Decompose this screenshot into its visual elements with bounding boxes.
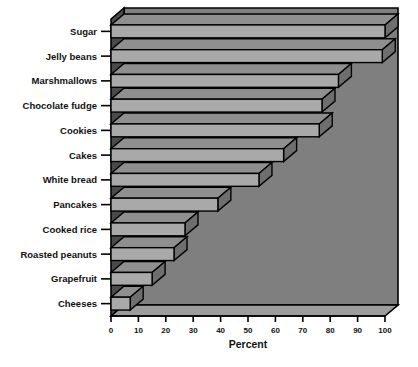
bar-group — [111, 63, 351, 87]
bar-group — [111, 162, 272, 186]
category-label: Pancakes — [53, 199, 97, 210]
category-label: Grapefruit — [51, 273, 98, 284]
bar-group — [111, 113, 332, 137]
category-label: Marshmallows — [32, 75, 97, 86]
bar-front-face[interactable] — [111, 50, 382, 63]
x-tick-label: 0 — [109, 326, 114, 335]
bar-group — [111, 237, 187, 261]
bar-front-face[interactable] — [111, 198, 218, 211]
bar-chart: SugarJelly beansMarshmallowsChocolate fu… — [0, 0, 418, 367]
category-label: Sugar — [70, 26, 97, 37]
bar-group — [111, 14, 398, 38]
bar-top-face — [111, 39, 395, 50]
caption-smudge — [8, 347, 158, 361]
bar-group — [111, 138, 297, 162]
x-axis: 0102030405060708090100 Percent — [109, 316, 392, 350]
x-tick-label: 70 — [298, 326, 307, 335]
x-tick-label: 30 — [189, 326, 198, 335]
category-labels: SugarJelly beansMarshmallowsChocolate fu… — [20, 26, 111, 309]
bar-group — [111, 39, 395, 63]
bar-front-face[interactable] — [111, 173, 259, 186]
bar-top-face — [111, 113, 332, 124]
bar-front-face[interactable] — [111, 297, 130, 310]
bar-top-face — [111, 14, 398, 25]
bar-group — [111, 187, 231, 211]
x-tick-label: 10 — [134, 326, 143, 335]
category-label: Cookies — [60, 125, 97, 136]
bar-front-face[interactable] — [111, 272, 152, 285]
category-label: Cheeses — [58, 298, 97, 309]
bar-top-face — [111, 162, 272, 173]
bar-top-face — [111, 63, 351, 74]
category-label: Cooked rice — [43, 224, 97, 235]
x-tick-label: 40 — [216, 326, 225, 335]
bar-group — [111, 261, 165, 285]
bar-front-face[interactable] — [111, 223, 185, 236]
bar-front-face[interactable] — [111, 149, 284, 162]
bar-top-face — [111, 88, 335, 99]
x-tick-label: 80 — [326, 326, 335, 335]
bar-front-face[interactable] — [111, 124, 319, 137]
bar-top-face — [111, 212, 198, 223]
x-tick-label: 20 — [161, 326, 170, 335]
panel-floor — [111, 305, 398, 316]
x-tick-label: 90 — [353, 326, 362, 335]
x-tick-label: 60 — [271, 326, 280, 335]
bar-front-face[interactable] — [111, 248, 174, 261]
x-tick-label: 50 — [244, 326, 253, 335]
bar-top-face — [111, 138, 297, 149]
category-label: Jelly beans — [46, 51, 97, 62]
figure-container: SugarJelly beansMarshmallowsChocolate fu… — [0, 0, 418, 367]
category-label: Roasted peanuts — [20, 249, 97, 260]
bar-top-face — [111, 187, 231, 198]
category-label: White bread — [43, 174, 98, 185]
bar-front-face[interactable] — [111, 99, 322, 112]
category-label: Cakes — [69, 150, 97, 161]
x-tick-label: 100 — [378, 326, 392, 335]
x-axis-title: Percent — [229, 338, 268, 350]
bar-front-face[interactable] — [111, 74, 338, 87]
bar-group — [111, 88, 335, 112]
bar-group — [111, 212, 198, 236]
category-label: Chocolate fudge — [23, 100, 97, 111]
x-axis-ticks: 0102030405060708090100 — [109, 316, 392, 335]
bar-front-face[interactable] — [111, 25, 385, 38]
